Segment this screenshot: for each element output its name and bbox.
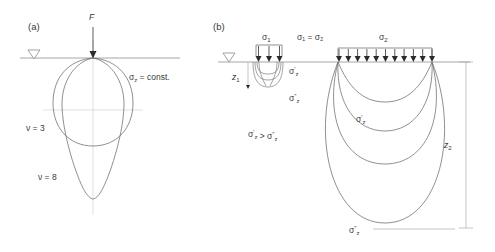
inequality-label: σ′z > σ″z <box>248 129 277 142</box>
small-sigma-double-prime-label: σ″z <box>289 93 299 104</box>
depth-z1-marker: z1 <box>231 62 250 89</box>
large-bulb-2 <box>338 62 432 131</box>
water-table-triangle-icon-b <box>223 53 235 62</box>
large-load-bracket <box>338 48 432 57</box>
panel-b: (b) σ1 <box>213 21 473 236</box>
small-load-stress-label: σ1 <box>262 32 271 43</box>
depth-z1-arrowhead <box>246 85 250 89</box>
panel-a: (a) F σz = const. ν = 3 ν = 8 <box>20 12 180 215</box>
panel-a-stress-const-label: σz = const. <box>129 72 170 83</box>
small-sigma-prime-label: σ′z <box>289 66 298 77</box>
pressure-bulb-figure: (a) F σz = const. ν = 3 ν = 8 (b) <box>0 0 495 252</box>
svg-text:σz = const.: σz = const. <box>129 72 170 83</box>
large-sigma-double-prime-label: σ″z <box>349 225 359 236</box>
panel-a-label: (a) <box>28 21 40 32</box>
large-load-group: σ2 <box>325 32 444 223</box>
large-bulb-1 <box>338 62 432 102</box>
large-load-arrows <box>336 49 435 62</box>
equal-stress-label: σ₁ = σ₂ <box>297 32 323 42</box>
depth-z1-label: z1 <box>231 72 240 83</box>
depth-z2-label: z2 <box>443 140 452 151</box>
panel-a-load-label: F <box>89 12 95 22</box>
panel-a-load-arrow-head <box>90 51 97 59</box>
panel-a-nu3-label: ν = 3 <box>26 123 45 133</box>
depth-z2-marker: z2 <box>443 62 473 228</box>
small-load-arrows <box>256 46 283 62</box>
panel-b-label: (b) <box>213 21 225 32</box>
const-text: = const. <box>137 72 169 82</box>
large-bulb-4 <box>325 62 444 223</box>
large-bulb-3 <box>334 62 437 164</box>
large-sigma-prime-label: σ′z <box>356 114 365 125</box>
large-load-stress-label: σ2 <box>379 32 388 43</box>
small-load-group: σ1 <box>253 32 283 87</box>
panel-a-nu8-label: ν = 8 <box>38 172 57 182</box>
